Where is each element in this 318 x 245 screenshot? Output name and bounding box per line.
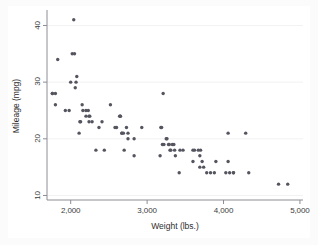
data-point <box>54 103 57 106</box>
data-point <box>122 148 125 151</box>
data-point <box>126 137 129 140</box>
data-point <box>84 114 87 117</box>
data-point <box>174 154 177 157</box>
data-point <box>122 131 125 134</box>
data-point <box>224 171 227 174</box>
data-point <box>77 131 80 134</box>
data-point <box>90 120 93 123</box>
data-point <box>126 131 129 134</box>
data-point <box>244 131 247 134</box>
data-point <box>132 137 135 140</box>
data-point <box>158 154 161 157</box>
data-point <box>74 86 77 89</box>
data-point <box>247 171 250 174</box>
plot-svg <box>0 0 318 245</box>
data-point <box>202 165 205 168</box>
data-point <box>200 160 203 163</box>
data-point <box>178 171 181 174</box>
data-point <box>87 120 90 123</box>
data-point <box>115 126 118 129</box>
data-point <box>51 92 54 95</box>
y-axis-title: Mileage (mpg) <box>11 79 21 133</box>
x-tick-label: 3,000 <box>137 206 157 215</box>
data-point <box>119 114 122 117</box>
data-point <box>72 18 75 21</box>
data-point <box>88 114 91 117</box>
axis-lines <box>47 10 303 200</box>
data-point <box>87 109 90 112</box>
data-point <box>213 171 216 174</box>
data-point <box>67 109 70 112</box>
data-point <box>181 148 184 151</box>
data-point <box>198 154 201 157</box>
y-tick-label: 40 <box>33 19 42 31</box>
x-axis-title: Weight (lbs.) <box>151 221 199 231</box>
data-point <box>97 126 100 129</box>
data-point <box>172 143 175 146</box>
data-point <box>286 182 289 185</box>
data-point <box>209 171 212 174</box>
data-point <box>132 154 135 157</box>
scatter-plot-screenshot: 2,0003,0004,0005,000 10203040 Weight (lb… <box>0 0 318 245</box>
data-point <box>103 148 106 151</box>
data-point <box>94 148 97 151</box>
data-point <box>161 92 164 95</box>
data-point <box>160 126 163 129</box>
data-point <box>198 165 201 168</box>
x-tick-label: 2,000 <box>61 206 81 215</box>
data-point <box>80 103 83 106</box>
data-point <box>75 75 78 78</box>
x-tick-label: 4,000 <box>214 206 234 215</box>
x-tick-label: 5,000 <box>290 206 310 215</box>
data-point <box>165 137 168 140</box>
data-point <box>79 120 82 123</box>
tick-marks <box>43 25 300 204</box>
data-point <box>228 171 231 174</box>
data-point <box>173 148 176 151</box>
data-point <box>277 182 280 185</box>
data-point <box>232 171 235 174</box>
data-point <box>178 148 181 151</box>
data-point <box>74 80 77 83</box>
data-point <box>54 92 57 95</box>
data-point <box>168 143 171 146</box>
data-point <box>226 131 229 134</box>
data-point <box>191 160 194 163</box>
data-point <box>69 80 72 83</box>
y-tick-label: 30 <box>33 76 42 88</box>
data-point <box>162 143 165 146</box>
data-point <box>214 160 217 163</box>
data-point <box>140 126 143 129</box>
data-point <box>81 109 84 112</box>
data-point <box>56 58 59 61</box>
data-point <box>199 148 202 151</box>
data-point <box>125 126 128 129</box>
data-point <box>205 171 208 174</box>
data-point <box>169 148 172 151</box>
y-tick-label: 20 <box>33 132 42 144</box>
data-point <box>64 109 67 112</box>
data-point <box>226 160 229 163</box>
data-point <box>73 52 76 55</box>
data-point <box>109 103 112 106</box>
data-point <box>100 120 103 123</box>
y-tick-label: 10 <box>33 189 42 201</box>
data-point-group <box>51 18 290 186</box>
data-point <box>193 148 196 151</box>
